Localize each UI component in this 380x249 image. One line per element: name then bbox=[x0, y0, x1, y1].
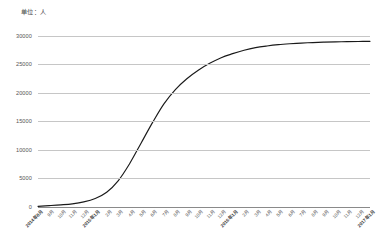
x-axis-labels: 2014年8月9月10月11月12月2015年1月2月3月4月5月6月7月8月9… bbox=[38, 208, 370, 249]
y-tick-label-0: 0 bbox=[29, 204, 32, 210]
y-tick-label-10000: 10000 bbox=[16, 147, 32, 153]
x-tick-label-9: 5月 bbox=[138, 208, 148, 218]
x-tick-label-7: 3月 bbox=[115, 208, 125, 218]
gridline-10000 bbox=[38, 150, 370, 151]
x-tick-label-8: 4月 bbox=[126, 208, 136, 218]
chart-container: 单位：人 050001000015000200002500030000 2014… bbox=[0, 0, 380, 249]
x-tick-label-19: 3月 bbox=[252, 208, 262, 218]
x-tick-label-11: 7月 bbox=[161, 208, 171, 218]
x-tick-label-21: 5月 bbox=[275, 208, 285, 218]
x-tick-label-1: 9月 bbox=[46, 208, 56, 218]
x-tick-label-27: 11月 bbox=[342, 208, 353, 219]
gridline-25000 bbox=[38, 64, 370, 65]
x-tick-label-2: 10月 bbox=[56, 208, 67, 219]
gridline-20000 bbox=[38, 93, 370, 94]
unit-label: 单位：人 bbox=[21, 7, 47, 16]
x-tick-label-18: 2月 bbox=[241, 208, 251, 218]
x-tick-label-6: 2月 bbox=[103, 208, 113, 218]
x-tick-label-26: 10月 bbox=[330, 208, 341, 219]
y-tick-label-25000: 25000 bbox=[16, 61, 32, 67]
x-tick-label-20: 4月 bbox=[264, 208, 274, 218]
x-tick-label-25: 9月 bbox=[321, 208, 331, 218]
x-tick-label-24: 8月 bbox=[309, 208, 319, 218]
x-tick-label-10: 6月 bbox=[149, 208, 159, 218]
x-tick-label-22: 6月 bbox=[287, 208, 297, 218]
x-tick-label-3: 11月 bbox=[67, 208, 78, 219]
x-tick-label-15: 11月 bbox=[205, 208, 216, 219]
y-tick-label-15000: 15000 bbox=[16, 118, 32, 124]
y-tick-label-30000: 30000 bbox=[16, 33, 32, 39]
gridline-15000 bbox=[38, 121, 370, 122]
y-tick-label-20000: 20000 bbox=[16, 90, 32, 96]
gridline-30000 bbox=[38, 36, 370, 37]
y-tick-label-5000: 5000 bbox=[19, 175, 32, 181]
x-tick-label-12: 8月 bbox=[172, 208, 182, 218]
gridline-5000 bbox=[38, 178, 370, 179]
x-tick-label-0: 2014年8月 bbox=[24, 208, 44, 228]
x-tick-label-13: 9月 bbox=[183, 208, 193, 218]
x-tick-label-14: 10月 bbox=[193, 208, 204, 219]
plot-area bbox=[38, 36, 370, 207]
series-path-累计人数 bbox=[38, 41, 370, 206]
x-tick-label-23: 7月 bbox=[298, 208, 308, 218]
